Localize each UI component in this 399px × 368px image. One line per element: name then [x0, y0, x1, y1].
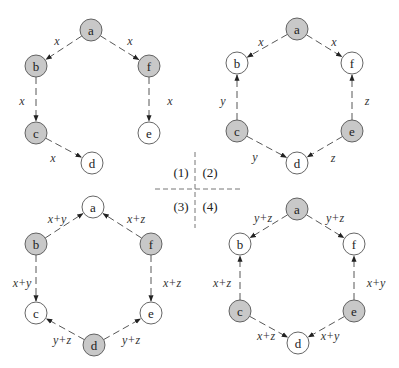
edge-label: x: [53, 34, 60, 48]
graph-1: xxxxxabfced: [18, 19, 173, 174]
edge-label: z: [364, 94, 370, 108]
node-label: d: [295, 336, 302, 351]
quadrant-label-1: (1): [173, 165, 188, 180]
node-label: e: [349, 124, 355, 139]
node-label: c: [234, 124, 240, 139]
graph-3: x+yx+zx+yx+zy+zy+zabfced: [12, 196, 182, 356]
node-f: f: [341, 52, 363, 74]
edge-label: y: [219, 94, 226, 108]
edge-a-f: [100, 36, 139, 60]
node-label: d: [294, 156, 301, 171]
node-label: d: [91, 338, 98, 353]
graph-2: xxyzyzabfced: [219, 18, 369, 174]
edge-a-b: [46, 36, 82, 59]
node-d: d: [81, 152, 103, 174]
edge-label: x+y: [47, 212, 67, 226]
node-c: c: [229, 300, 251, 322]
quadrant-label-2: (2): [202, 165, 217, 180]
node-c: c: [25, 302, 47, 324]
node-label: c: [33, 306, 39, 321]
edge-label: y: [251, 150, 258, 164]
edge-a-b: [247, 34, 287, 57]
node-label: e: [148, 306, 154, 321]
node-label: d: [89, 156, 96, 171]
graph-figure: (1) (2) (3) (4) xxxxxabfcedxxyzyzabfcedx…: [0, 0, 399, 368]
edge-label: z: [330, 151, 336, 165]
node-b: b: [226, 52, 248, 74]
edge-label: y+z: [52, 333, 71, 347]
node-a: a: [286, 18, 308, 40]
node-b: b: [229, 233, 251, 255]
node-a: a: [82, 196, 104, 218]
node-label: a: [294, 22, 300, 37]
node-f: f: [138, 55, 160, 77]
node-a: a: [80, 19, 102, 41]
edge-label: x+z: [212, 276, 231, 290]
node-c: c: [226, 120, 248, 142]
edge-label: x+y: [12, 276, 32, 290]
node-label: f: [352, 237, 357, 252]
node-label: f: [147, 59, 152, 74]
edge-label: x+z: [126, 212, 145, 226]
edge-label: y+z: [253, 211, 272, 225]
node-label: b: [33, 59, 40, 74]
node-f: f: [343, 233, 365, 255]
node-c: c: [25, 122, 47, 144]
edge-label: x+z: [162, 276, 181, 290]
node-label: f: [350, 56, 355, 71]
node-label: c: [237, 304, 243, 319]
edge-label: y+z: [325, 211, 344, 225]
node-f: f: [140, 233, 162, 255]
edge-label: x: [126, 34, 133, 48]
edge-label: x+z: [256, 329, 275, 343]
quadrant-divider: (1) (2) (3) (4): [155, 152, 240, 228]
node-d: d: [286, 152, 308, 174]
edge-label: x: [18, 94, 25, 108]
node-a: a: [286, 198, 308, 220]
node-e: e: [140, 302, 162, 324]
node-b: b: [25, 233, 47, 255]
graph-4: y+zy+zx+zx+yx+zx+yabfced: [212, 198, 386, 354]
edge-label: x: [49, 151, 56, 165]
diagram-canvas: (1) (2) (3) (4) xxxxxabfcedxxyzyzabfcedx…: [0, 0, 399, 368]
edge-e-d: [307, 137, 342, 158]
edge-label: x+y: [320, 329, 340, 343]
node-d: d: [83, 334, 105, 356]
edge-label: x: [257, 35, 264, 49]
node-d: d: [287, 332, 309, 354]
node-e: e: [138, 122, 160, 144]
graphs: xxxxxabfcedxxyzyzabfcedx+yx+zx+yx+zy+zy+…: [12, 18, 386, 356]
edge-label: x: [166, 94, 173, 108]
edge-label: x+y: [366, 276, 386, 290]
node-label: f: [149, 237, 154, 252]
node-b: b: [25, 55, 47, 77]
node-label: a: [90, 200, 96, 215]
quadrant-label-4: (4): [202, 199, 217, 214]
node-e: e: [343, 300, 365, 322]
edge-label: y+z: [121, 333, 140, 347]
node-label: b: [234, 56, 241, 71]
node-label: b: [237, 237, 244, 252]
node-label: e: [351, 304, 357, 319]
node-label: c: [33, 126, 39, 141]
quadrant-label-3: (3): [173, 199, 188, 214]
node-label: a: [88, 23, 94, 38]
node-e: e: [341, 120, 363, 142]
edge-label: x: [330, 35, 337, 49]
node-label: b: [33, 237, 40, 252]
node-label: e: [146, 126, 152, 141]
node-label: a: [294, 202, 300, 217]
